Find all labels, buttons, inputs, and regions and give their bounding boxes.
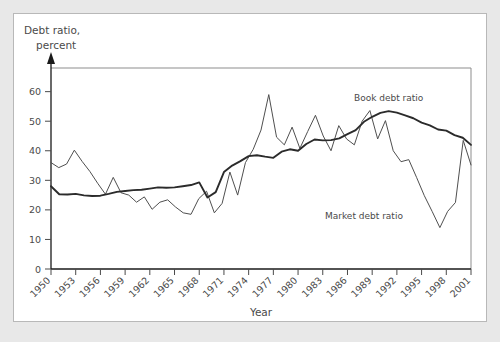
x-tick-label: 1998 [423, 275, 448, 300]
y-axis-title-line1: Debt ratio, [24, 24, 80, 36]
x-tick-label: 1953 [52, 275, 77, 300]
x-tick-label: 1962 [126, 275, 151, 300]
x-tick-label: 1959 [102, 275, 127, 300]
x-tick-label: 1971 [200, 275, 225, 300]
figure-panel: 0102030405060 19501953195619591962196519… [13, 13, 487, 322]
y-tick-label: 20 [29, 204, 41, 215]
debt-ratio-chart: 0102030405060 19501953195619591962196519… [14, 14, 486, 321]
y-axis-title-line2: percent [36, 39, 76, 51]
y-tick-label: 10 [29, 234, 41, 245]
x-tick-label: 1977 [250, 275, 275, 300]
x-tick-label: 1983 [299, 275, 324, 300]
x-tick-label: 1980 [275, 275, 300, 300]
x-tick-label: 1974 [225, 275, 250, 300]
x-tick-label: 1968 [176, 275, 201, 300]
y-tick-label: 60 [29, 86, 41, 97]
y-tick-label: 40 [29, 145, 41, 156]
x-axis-title: Year [249, 306, 273, 318]
x-tick-label: 1989 [349, 275, 374, 300]
series-line-market-debt-ratio [51, 95, 471, 228]
y-tick-label: 50 [29, 116, 41, 127]
x-tick-label: 2001 [448, 275, 473, 300]
y-tick-label: 30 [29, 175, 41, 186]
x-tick-label: 1950 [28, 275, 53, 300]
x-tick-label: 1992 [373, 275, 398, 300]
x-tick-label: 1995 [398, 275, 423, 300]
series-line-book-debt-ratio [51, 111, 471, 197]
x-axis-ticks: 1950195319561959196219651968197119741977… [28, 269, 473, 300]
x-tick-label: 1956 [77, 275, 102, 300]
y-tick-label: 0 [35, 264, 41, 275]
x-tick-label: 1986 [324, 275, 349, 300]
series-label-book-debt-ratio: Book debt ratio [354, 93, 424, 103]
y-axis [47, 52, 55, 269]
series-label-market-debt-ratio: Market debt ratio [325, 211, 403, 221]
x-tick-label: 1965 [151, 275, 176, 300]
y-axis-ticks: 0102030405060 [29, 86, 51, 274]
